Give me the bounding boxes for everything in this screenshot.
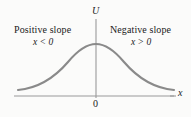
origin-label: 0 — [93, 99, 98, 109]
positive-slope-label: Positive slope — [14, 25, 71, 35]
negative-slope-condition: x > 0 — [131, 38, 151, 48]
y-axis-label: U — [92, 6, 99, 16]
potential-energy-figure: Positive slope x < 0 Negative slope x > … — [0, 0, 191, 117]
positive-slope-condition: x < 0 — [33, 38, 53, 48]
x-axis-label: x — [178, 88, 182, 98]
negative-slope-label: Negative slope — [110, 25, 171, 35]
